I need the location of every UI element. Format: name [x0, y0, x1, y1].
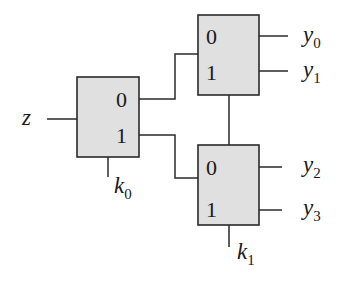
output-label-y3: y3: [301, 195, 321, 224]
s0-port-1: 1: [116, 123, 127, 148]
s1-port-0: 0: [206, 24, 217, 49]
wire-s0-port1-to-s2: [139, 135, 198, 178]
s1-port-1: 1: [206, 60, 217, 85]
output-label-y0: y0: [301, 22, 321, 51]
s0-port-0: 0: [116, 87, 127, 112]
output-label-y1: y1: [301, 57, 321, 86]
output-label-y2: y2: [301, 152, 321, 181]
control-label-k1: k1: [237, 239, 255, 268]
demux-diagram: 0 1 0 1 0 1 z k0 k1 y0 y1 y2 y3: [0, 0, 348, 284]
wire-s0-port0-to-s1: [139, 54, 198, 99]
input-label-z: z: [21, 105, 31, 130]
s2-port-0: 0: [206, 155, 217, 180]
s2-port-1: 1: [206, 197, 217, 222]
control-label-k0: k0: [114, 173, 132, 202]
switch-box-s0: [77, 77, 139, 157]
